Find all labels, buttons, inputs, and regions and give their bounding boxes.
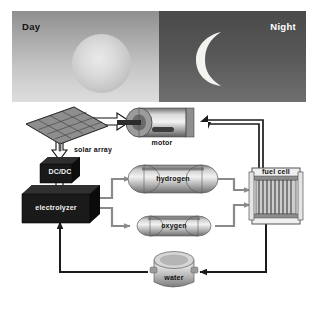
sun-icon (72, 34, 131, 93)
fuel-cell-stack-icon (249, 168, 303, 224)
electrolyzer-label: electrolyzer (22, 204, 90, 211)
night-label: Night (270, 21, 296, 32)
dcdc-label: DC/DC (40, 168, 80, 175)
electric-motor-icon (117, 108, 194, 137)
fuel-cell-to-motor-wires (200, 115, 263, 170)
figure-canvas: Day Night (0, 0, 318, 311)
water-label: water (152, 274, 196, 281)
day-label: Day (22, 21, 40, 32)
water-tank-icon (150, 252, 198, 288)
solar-array-label: solar array (64, 146, 122, 153)
crescent-moon-icon (188, 30, 234, 88)
flow-diagram: solar array DC/DC electrolyzer hydrogen … (12, 102, 306, 300)
sky-band: Day Night (12, 11, 306, 102)
oxygen-label: oxygen (150, 222, 198, 229)
motor-label: motor (138, 139, 186, 146)
solar-panel-icon (26, 107, 108, 151)
hydrogen-label: hydrogen (144, 175, 202, 182)
fuel-cell-label: fuel cell (252, 168, 300, 175)
